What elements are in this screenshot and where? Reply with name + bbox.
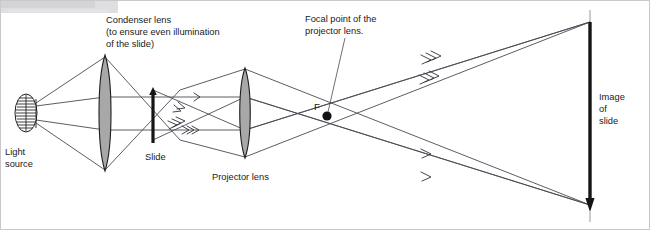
image-of-slide-label-line2: of	[599, 104, 607, 114]
focal-point-marker	[322, 111, 331, 120]
condenser-lens-label-line3: of the slide)	[106, 39, 154, 49]
light-source	[15, 94, 37, 132]
optics-diagram: Light source Condenser lens (to ensure e…	[0, 0, 650, 230]
condenser-lens	[99, 55, 111, 171]
optics-ray-diagram-canvas: Light source Condenser lens (to ensure e…	[0, 0, 650, 230]
slide-label: Slide	[145, 152, 166, 162]
focal-point-label-line2: projector lens.	[305, 26, 363, 36]
projector-lens-label: Projector lens	[212, 172, 269, 182]
light-source-label-line1: Light	[5, 147, 26, 157]
focal-point-label-line1: Focal point of the	[305, 14, 376, 24]
image-of-slide-label-line3: slide	[599, 116, 618, 126]
focal-point-f-label: F	[314, 101, 320, 112]
image-of-slide-label-line1: Image	[599, 92, 625, 102]
condenser-lens-label-line2: (to ensure even illumination	[106, 27, 220, 37]
scan-smudge	[0, 0, 118, 13]
light-source-label-line2: source	[5, 159, 33, 169]
projector-lens	[240, 68, 251, 158]
condenser-lens-label-line1: Condenser lens	[106, 15, 171, 25]
